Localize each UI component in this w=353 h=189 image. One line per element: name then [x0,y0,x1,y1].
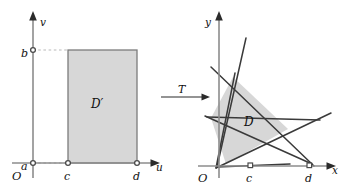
x-tick-label-c: c [246,167,252,186]
u-tick-label-c: c [64,165,70,184]
region-d-label: D [244,111,254,130]
right-panel-xy-plane [198,11,336,178]
transformation-arrowhead [202,94,211,101]
transformation-label: T [178,78,185,97]
right-origin-label: O [198,167,207,186]
x-tick-label-d: d [305,167,312,186]
v-tick-b-dot [31,48,36,53]
v-axis-label: v [40,11,46,30]
v-axis-arrowhead [29,11,37,21]
left-panel-uv-plane [12,11,160,178]
x-axis-label: x [332,159,338,178]
u-axis-label: u [156,156,163,175]
v-tick-a-dot [31,161,36,166]
figure-canvas [0,0,353,189]
transformation-arrow-group [161,94,210,101]
transformation-figure: v u O c d a b D′ T y x O c d D [0,0,353,189]
y-axis-label: y [205,11,211,30]
v-tick-label-a: a [21,155,28,174]
y-axis-arrowhead [215,11,223,21]
region-d-prime-label: D′ [91,93,103,112]
u-tick-label-d: d [133,165,140,184]
v-tick-label-b: b [21,42,28,61]
